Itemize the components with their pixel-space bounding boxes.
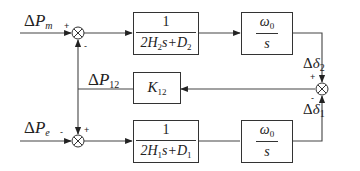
sign-top-sum-input: + xyxy=(64,22,69,31)
transfer-function-top: 1 2H2s+D2 xyxy=(136,15,195,52)
block-inertia-bottom: 1 2H1s+D1 xyxy=(133,120,199,163)
input-label-delta-pm: ΔPm xyxy=(24,12,53,31)
integrator-function-bottom: ω0 s xyxy=(256,123,278,160)
block-inertia-top: 1 2H2s+D2 xyxy=(133,12,199,55)
top-summing-junction xyxy=(72,27,84,39)
input-label-delta-pe: ΔPe xyxy=(24,119,50,138)
sign-right-sum-top: + xyxy=(310,73,315,82)
feedback-label-delta-p12: ΔP12 xyxy=(88,71,119,90)
sign-right-sum-bottom: - xyxy=(311,94,314,103)
transfer-function-bottom: 1 2H1s+D1 xyxy=(136,123,195,160)
block-integrator-bottom: ω0 s xyxy=(241,120,293,163)
block-gain-k12: K12 xyxy=(133,72,181,104)
right-summing-junction xyxy=(316,83,328,95)
output-label-delta-delta2: Δδ2 xyxy=(303,56,325,73)
block-integrator-top: ω0 s xyxy=(241,12,293,55)
output-label-delta-delta1: Δδ1 xyxy=(303,102,325,119)
integrator-function-top: ω0 s xyxy=(256,15,278,52)
sign-bottom-sum-feedback: + xyxy=(84,126,89,135)
sign-top-sum-feedback: - xyxy=(84,42,87,51)
bottom-summing-junction xyxy=(72,135,84,147)
sign-bottom-sum-input: - xyxy=(60,128,63,137)
